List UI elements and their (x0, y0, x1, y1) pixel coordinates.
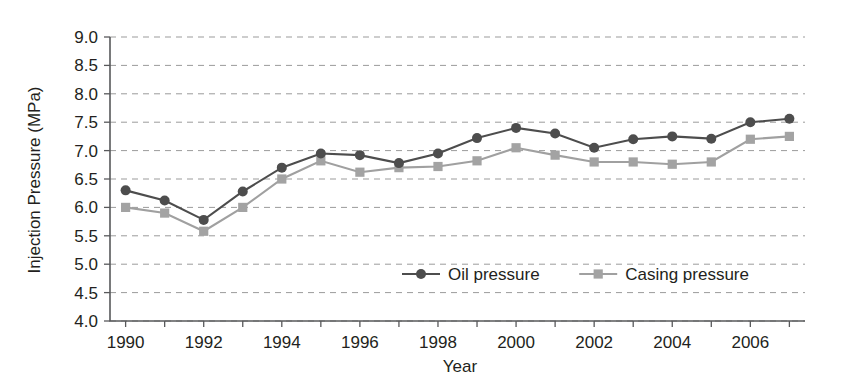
data-point-oil-pressure (199, 215, 209, 225)
x-tick-label: 1990 (107, 333, 145, 352)
x-tick-label: 2002 (575, 333, 613, 352)
data-point-oil-pressure (433, 148, 443, 158)
series-casing-pressure (121, 132, 794, 236)
data-point-casing-pressure (551, 151, 560, 160)
data-point-casing-pressure (355, 168, 364, 177)
x-tick-label: 2004 (653, 333, 691, 352)
data-point-oil-pressure (160, 196, 170, 206)
data-point-oil-pressure (511, 123, 521, 133)
y-tick-label: 8.5 (74, 56, 98, 75)
data-point-oil-pressure (550, 129, 560, 139)
data-point-oil-pressure (277, 163, 287, 173)
data-point-casing-pressure (629, 157, 638, 166)
data-point-oil-pressure (121, 185, 131, 195)
data-point-casing-pressure (590, 157, 599, 166)
x-tick-label: 2006 (731, 333, 769, 352)
data-point-casing-pressure (785, 132, 794, 141)
data-point-oil-pressure (472, 133, 482, 143)
series-oil-pressure (121, 114, 795, 225)
legend-label: Casing pressure (625, 265, 749, 284)
data-point-oil-pressure (784, 114, 794, 124)
x-tick-label: 1992 (185, 333, 223, 352)
data-point-casing-pressure (277, 174, 286, 183)
x-tick-labels: 199019921994199619982000200220042006 (107, 333, 770, 352)
data-point-oil-pressure (745, 117, 755, 127)
line-chart: 4.04.55.05.56.06.57.07.58.08.59.0 199019… (0, 0, 848, 389)
chart-figure: 4.04.55.05.56.06.57.07.58.08.59.0 199019… (0, 0, 848, 389)
x-axis-title: Year (443, 357, 478, 376)
data-point-casing-pressure (433, 162, 442, 171)
series-line (126, 119, 790, 220)
y-tick-label: 7.5 (74, 113, 98, 132)
data-point-casing-pressure (160, 208, 169, 217)
y-tick-label: 8.0 (74, 85, 98, 104)
y-tick-label: 4.5 (74, 284, 98, 303)
x-tick-label: 1998 (419, 333, 457, 352)
data-point-oil-pressure (667, 131, 677, 141)
y-axis-title: Injection Pressure (MPa) (25, 86, 44, 273)
legend-marker-square-icon (594, 269, 603, 278)
data-point-casing-pressure (746, 135, 755, 144)
data-point-oil-pressure (355, 150, 365, 160)
y-tick-label: 5.0 (74, 255, 98, 274)
data-point-casing-pressure (238, 203, 247, 212)
y-tick-label: 6.5 (74, 170, 98, 189)
y-tick-label: 7.0 (74, 142, 98, 161)
data-point-oil-pressure (238, 186, 248, 196)
data-point-casing-pressure (707, 157, 716, 166)
y-tick-labels: 4.04.55.05.56.06.57.07.58.08.59.0 (74, 28, 98, 331)
data-point-casing-pressure (511, 143, 520, 152)
data-point-oil-pressure (706, 134, 716, 144)
data-point-casing-pressure (668, 160, 677, 169)
y-tick-label: 5.5 (74, 227, 98, 246)
legend-label: Oil pressure (448, 265, 540, 284)
data-point-oil-pressure (316, 148, 326, 158)
data-point-oil-pressure (394, 158, 404, 168)
data-point-oil-pressure (628, 134, 638, 144)
data-point-casing-pressure (121, 203, 130, 212)
legend-marker-circle-icon (416, 269, 426, 279)
y-tick-label: 4.0 (74, 312, 98, 331)
x-tick-label: 1994 (263, 333, 301, 352)
x-tick-label: 1996 (341, 333, 379, 352)
chart-legend: Oil pressureCasing pressure (402, 265, 749, 284)
data-point-casing-pressure (199, 227, 208, 236)
data-point-casing-pressure (472, 156, 481, 165)
y-tick-label: 6.0 (74, 198, 98, 217)
x-tick-label: 2000 (497, 333, 535, 352)
y-tick-label: 9.0 (74, 28, 98, 47)
data-point-oil-pressure (589, 143, 599, 153)
